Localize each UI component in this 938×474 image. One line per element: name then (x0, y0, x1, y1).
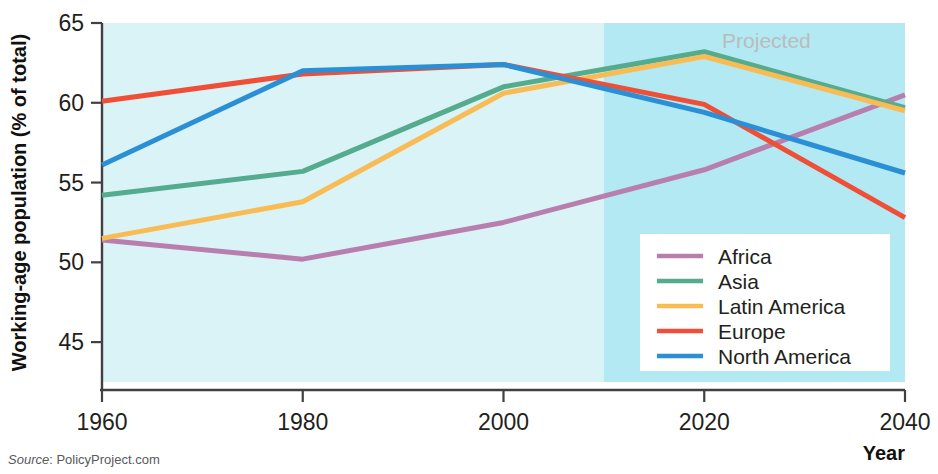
x-tick-label: 1960 (76, 409, 127, 435)
y-tick-label: 45 (58, 329, 84, 355)
legend-label-north-america: North America (718, 345, 851, 368)
source-note: Source: PolicyProject.com (8, 452, 160, 467)
legend-label-europe: Europe (718, 320, 786, 343)
legend-label-asia: Asia (718, 270, 759, 293)
legend-label-africa: Africa (718, 245, 772, 268)
projected-label: Projected (722, 29, 811, 52)
y-tick-label: 50 (58, 249, 84, 275)
source-name: PolicyProject.com (56, 452, 159, 467)
y-tick-label: 55 (58, 170, 84, 196)
y-axis-title: Working-age population (% of total) (8, 34, 30, 371)
source-prefix: Source (8, 452, 49, 467)
chart-figure: Projected656055504519601980200020202040W… (0, 0, 938, 474)
x-tick-label: 2020 (679, 409, 730, 435)
x-tick-label: 2040 (879, 409, 930, 435)
legend-label-latin-america: Latin America (718, 295, 846, 318)
x-axis-title: Year (863, 442, 905, 464)
x-tick-label: 1980 (277, 409, 328, 435)
y-tick-label: 60 (58, 90, 84, 116)
y-tick-label: 65 (58, 10, 84, 36)
x-tick-label: 2000 (478, 409, 529, 435)
line-chart: Projected656055504519601980200020202040W… (0, 0, 938, 474)
